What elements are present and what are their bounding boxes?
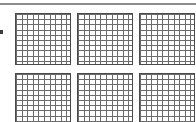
hundreds-grid-4[interactable] xyxy=(15,73,71,122)
hundreds-grid-6[interactable] xyxy=(139,73,195,122)
grid-cells-3 xyxy=(139,13,195,65)
hundreds-grid-5[interactable] xyxy=(77,73,133,122)
grid-cells-5 xyxy=(77,73,133,122)
grid-cells-1 xyxy=(15,13,71,65)
grid-cells-4 xyxy=(15,73,71,122)
worksheet-page xyxy=(0,0,196,122)
grid-cells-6 xyxy=(139,73,195,122)
hundreds-grid-3[interactable] xyxy=(139,13,195,65)
hundreds-grid-1[interactable] xyxy=(15,13,71,65)
grid-area xyxy=(0,0,196,122)
hundreds-grid-2[interactable] xyxy=(77,13,133,65)
grid-cells-2 xyxy=(77,13,133,65)
